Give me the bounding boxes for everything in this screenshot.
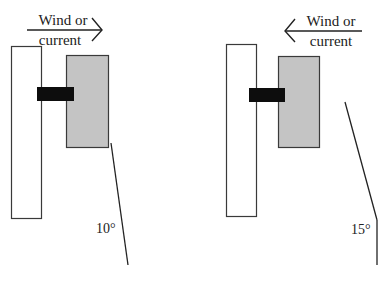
fixed-panel	[12, 47, 42, 219]
tilt-line	[111, 143, 128, 265]
angle-label: 15°	[351, 222, 371, 237]
panel-left: Wind or current 10°	[12, 12, 129, 265]
connector-bar	[249, 88, 285, 102]
flow-label-line1: Wind or	[39, 12, 88, 28]
flow-label-line2: current	[39, 32, 82, 48]
panel-right: Wind or current 15°	[227, 13, 378, 265]
angle-label: 10°	[96, 221, 116, 236]
flow-label-line1: Wind or	[307, 13, 356, 29]
floating-body	[67, 56, 109, 148]
connector-bar	[37, 87, 74, 101]
figure-canvas: Wind or current 10° Wind or current 15°	[0, 0, 392, 281]
tilt-line	[345, 102, 377, 220]
fixed-panel	[227, 45, 257, 217]
flow-label-line2: current	[310, 33, 353, 49]
